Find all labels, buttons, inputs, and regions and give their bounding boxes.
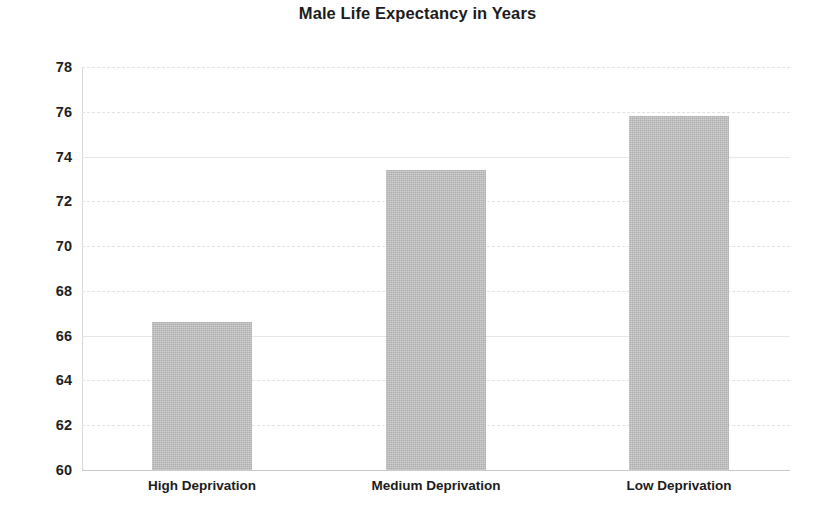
y-tick-label-78: 78 xyxy=(12,59,72,75)
y-tick-label-66: 66 xyxy=(12,328,72,344)
x-axis-tick-labels: High DeprivationMedium DeprivationLow De… xyxy=(82,478,790,502)
y-tick-label-60: 60 xyxy=(12,462,72,478)
y-tick-label-64: 64 xyxy=(12,372,72,388)
y-tick-label-70: 70 xyxy=(12,238,72,254)
y-axis-tick-labels: 60626466687072747678 xyxy=(10,67,72,470)
gridline-76 xyxy=(82,112,790,114)
x-axis-line xyxy=(82,470,790,471)
y-tick-label-74: 74 xyxy=(12,149,72,165)
bar xyxy=(386,170,486,470)
chart-title: Male Life Expectancy in Years xyxy=(0,4,835,23)
plot-area xyxy=(82,67,790,470)
x-tick-label: High Deprivation xyxy=(148,478,256,493)
x-tick-label: Low Deprivation xyxy=(626,478,731,493)
bar xyxy=(152,322,252,470)
y-tick-label-76: 76 xyxy=(12,104,72,120)
x-tick-label: Medium Deprivation xyxy=(371,478,500,493)
gridline-78 xyxy=(82,67,790,69)
y-tick-label-62: 62 xyxy=(12,417,72,433)
y-tick-label-68: 68 xyxy=(12,283,72,299)
y-tick-label-72: 72 xyxy=(12,193,72,209)
bar xyxy=(629,116,729,470)
